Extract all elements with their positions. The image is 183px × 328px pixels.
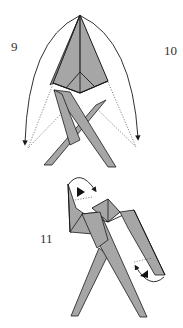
origami-diagram [0,0,183,328]
legs [44,90,116,167]
right-arm [120,210,165,275]
figure-step-11 [68,178,165,317]
push-arrow-icon [77,187,85,197]
body-kite [50,15,108,93]
figure-steps-9-10 [25,15,138,167]
